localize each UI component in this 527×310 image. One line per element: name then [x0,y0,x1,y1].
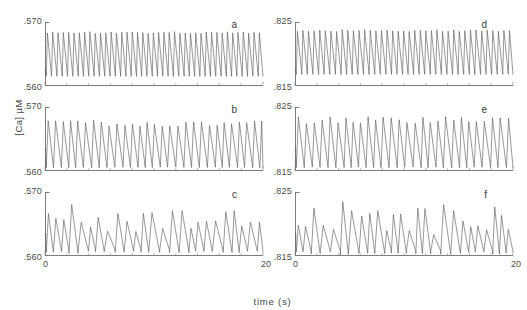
panel-d: .825 .815 d [295,22,513,86]
panel-f-xtick-min: 0 [293,259,298,269]
panel-c-xtick-max: 20 [261,259,271,269]
panel-f-ytick-max: .825 [274,186,292,196]
panel-c-plot [45,192,263,256]
panel-d-ytick-max: .825 [274,16,292,26]
panel-c: .570 .560 c 0 20 [45,192,263,256]
panel-e-ytick-min: .815 [274,167,292,177]
panel-a-ytick-min: .560 [24,82,42,92]
panel-a: .570 .560 a [45,22,263,86]
panel-a-ytick-max: .570 [24,16,42,26]
panel-c-ytick-min: .560 [24,252,42,262]
panel-d-ytick-min: .815 [274,82,292,92]
panel-e: .825 .815 e [295,107,513,171]
panel-c-xtick-min: 0 [43,259,48,269]
panel-e-plot [295,107,513,171]
panel-e-ytick-max: .825 [274,101,292,111]
panel-b: .570 .560 b [45,107,263,171]
panel-b-ytick-min: .560 [24,167,42,177]
figure-canvas: [Ca] µM .570 .560 a .570 .560 b .570 .56… [0,0,527,310]
x-axis-title-wrap: time (s) [0,296,527,307]
x-axis-title: time (s) [253,296,291,307]
panel-d-plot [295,22,513,86]
panel-f-plot [295,192,513,256]
panel-a-plot [45,22,263,86]
y-axis-title: [Ca] µM [13,78,24,158]
panel-f-xtick-max: 20 [511,259,521,269]
panel-b-plot [45,107,263,171]
panel-c-ytick-max: .570 [24,186,42,196]
panel-f: .825 .815 f 0 20 [295,192,513,256]
panel-b-ytick-max: .570 [24,101,42,111]
panel-f-ytick-min: .815 [274,252,292,262]
